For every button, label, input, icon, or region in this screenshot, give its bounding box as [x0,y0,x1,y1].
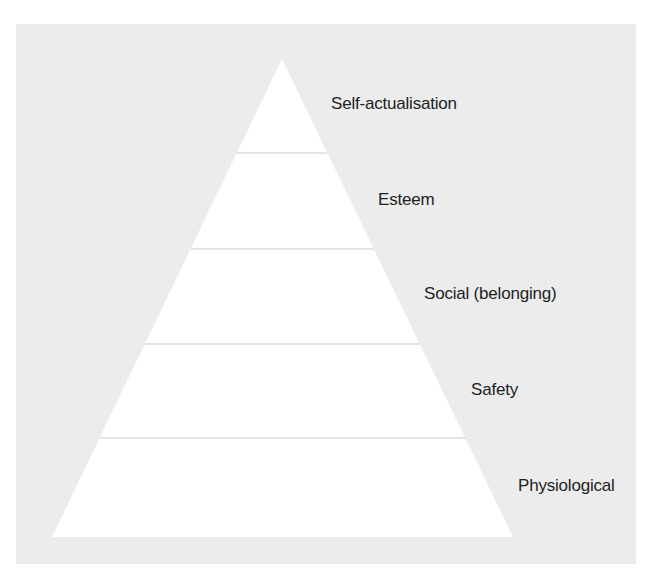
level-label-safety: Safety [471,380,518,400]
level-label-social: Social (belonging) [424,284,556,304]
level-label-physiological: Physiological [518,476,615,496]
level-label-esteem: Esteem [378,190,434,210]
level-label-self-actualisation: Self-actualisation [331,94,457,114]
